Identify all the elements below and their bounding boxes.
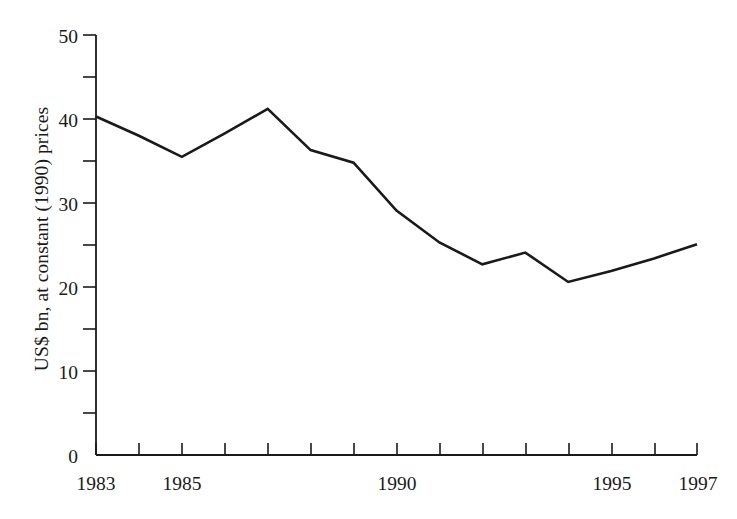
y-axis-minor-ticks [83,77,96,413]
plot-area [0,0,737,519]
x-axis-ticks [96,443,697,455]
data-series-line [96,109,697,282]
line-chart: US$ bn, at constant (1990) prices 50 40 … [0,0,737,519]
y-axis-major-ticks [83,35,96,371]
